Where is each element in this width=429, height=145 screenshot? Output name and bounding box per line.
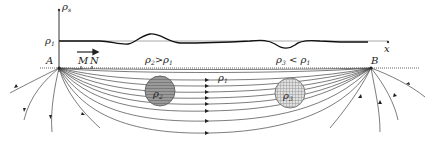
sphere-rho2: ρ2 — [145, 76, 175, 106]
electrode-m-label: M — [77, 55, 89, 66]
outer-arrows-b — [358, 82, 410, 104]
electrode-a — [58, 67, 61, 70]
baseline-label: ρ1 — [44, 35, 55, 47]
resistivity-diagram: ρs ρ1 x A B M N ρ2>ρ1 ρ3 < ρ1 ρ1 — [0, 0, 429, 145]
electrode-b-label: B — [370, 55, 378, 66]
x-axis-label: x — [384, 43, 390, 54]
outer-lines-a — [10, 68, 100, 132]
outer-lines-b — [330, 68, 425, 132]
electrode-a-label: A — [45, 55, 53, 66]
y-axis-label: ρs — [61, 1, 71, 13]
medium-label: ρ1 — [217, 72, 228, 84]
flow-arrows — [205, 78, 209, 135]
sphere-rho3: ρ3 — [275, 78, 305, 108]
right-region-condition: ρ3 < ρ1 — [275, 54, 310, 66]
current-field-lines — [59, 68, 371, 133]
outer-arrows-a — [14, 84, 85, 119]
electrode-b — [370, 67, 373, 70]
electrode-n-label: N — [89, 55, 100, 66]
left-region-condition: ρ2>ρ1 — [144, 54, 173, 66]
